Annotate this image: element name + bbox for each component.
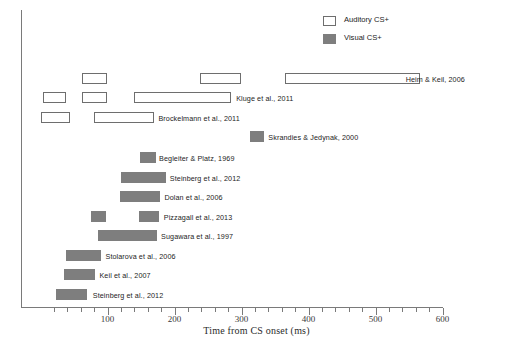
bar-segment (250, 131, 265, 142)
bar-segment (120, 191, 160, 202)
x-tick-minor (148, 308, 149, 312)
x-tick-minor (188, 308, 189, 312)
x-tick-minor (335, 308, 336, 312)
x-tick-minor (389, 308, 390, 312)
bar-segment (82, 92, 107, 103)
x-tick-minor (268, 308, 269, 312)
x-tick-label: 100 (101, 314, 115, 324)
bar-row-label: Keil et al., 2007 (99, 271, 150, 280)
bar-segment (82, 73, 107, 84)
bar-row-label: Sugawara et al., 1997 (161, 232, 233, 241)
bar-segment (94, 112, 154, 123)
bar-segment (200, 73, 242, 84)
legend-swatch-auditory (323, 16, 336, 26)
x-tick-minor (215, 308, 216, 312)
x-tick-minor (349, 308, 350, 312)
x-tick-minor (81, 308, 82, 312)
x-tick-minor (416, 308, 417, 312)
x-tick-label: 200 (168, 314, 182, 324)
bar-segment (41, 112, 70, 123)
bar-segment (91, 211, 106, 222)
x-tick-minor (295, 308, 296, 312)
x-tick-minor (402, 308, 403, 312)
x-tick-minor (255, 308, 256, 312)
x-tick-minor (134, 308, 135, 312)
bar-segment (43, 92, 66, 103)
bar-row-label: Brockelmann et al., 2011 (158, 114, 239, 123)
bar-row-label: Begleiter & Platz, 1969 (159, 154, 234, 163)
bar-row-label: Heim & Keil, 2006 (406, 75, 465, 84)
legend-label: Visual CS+ (344, 33, 382, 42)
x-tick-minor (228, 308, 229, 312)
bar-segment (121, 172, 167, 183)
bar-row-label: Skrandies & Jedynak, 2000 (268, 133, 358, 142)
bar-segment (56, 289, 87, 300)
bar-row-label: Steinberg et al., 2012 (93, 291, 164, 300)
legend-swatch-visual (323, 34, 336, 44)
x-tick-minor (67, 308, 68, 312)
bar-segment (64, 269, 95, 280)
x-tick-label: 300 (235, 314, 249, 324)
x-tick-minor (201, 308, 202, 312)
bar-segment (66, 250, 101, 261)
bar-segment (140, 152, 156, 163)
x-tick-minor (54, 308, 55, 312)
y-axis-line (21, 10, 22, 307)
x-tick-minor (161, 308, 162, 312)
bar-row-label: Dolan et al., 2006 (164, 193, 222, 202)
x-tick-minor (429, 308, 430, 312)
bar-segment (134, 92, 230, 103)
bar-row-label: Steinberg et al., 2012 (170, 174, 241, 183)
bar-row-label: Kluge et al., 2011 (236, 94, 293, 103)
x-tick-label: 600 (436, 314, 450, 324)
x-axis-line (21, 307, 443, 308)
x-tick-minor (362, 308, 363, 312)
bar-segment (285, 73, 420, 84)
x-tick-minor (121, 308, 122, 312)
legend-label: Auditory CS+ (344, 15, 389, 24)
chart-plot-area: 100200300400500600 Heim & Keil, 2006Klug… (0, 0, 513, 340)
x-tick-label: 400 (302, 314, 316, 324)
x-axis-title: Time from CS onset (ms) (0, 325, 513, 336)
bar-row-label: Pizzagall et al., 2013 (164, 213, 233, 222)
x-tick-minor (322, 308, 323, 312)
x-tick-minor (282, 308, 283, 312)
x-tick-minor (94, 308, 95, 312)
bar-segment (139, 211, 159, 222)
bar-row-label: Stolarova et al., 2006 (105, 252, 175, 261)
x-tick-label: 500 (369, 314, 383, 324)
bar-segment (98, 230, 157, 241)
